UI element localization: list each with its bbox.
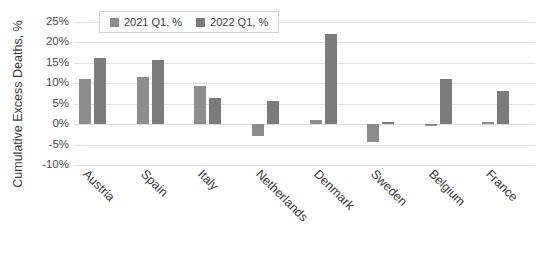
bar — [94, 58, 106, 124]
bar — [367, 124, 379, 142]
bar — [425, 124, 437, 126]
bar-group — [189, 22, 247, 165]
legend-swatch-icon — [196, 18, 205, 27]
bar — [382, 122, 394, 124]
bar — [152, 60, 164, 125]
y-axis-tick-label: 0% — [21, 117, 69, 129]
bar-group — [362, 22, 420, 165]
bar — [325, 34, 337, 124]
bar — [310, 120, 322, 124]
y-axis-tick-label: 10% — [21, 76, 69, 88]
bar — [137, 77, 149, 124]
gridline — [74, 165, 535, 166]
x-axis-label: Italy — [195, 167, 221, 193]
x-axis-label: Sweden — [368, 167, 410, 209]
legend-item-2022[interactable]: 2022 Q1, % — [196, 16, 268, 28]
bar — [194, 86, 206, 124]
bar — [482, 122, 494, 124]
y-axis-tick-label: 20% — [21, 35, 69, 47]
y-axis-tick-label: 25% — [21, 15, 69, 27]
x-axis-label: Netherlands — [253, 167, 311, 225]
bar — [440, 79, 452, 124]
bar-series-container — [74, 22, 535, 165]
bar-group — [420, 22, 478, 165]
bar-group — [305, 22, 363, 165]
bar — [267, 101, 279, 124]
bar — [79, 79, 91, 124]
x-axis-category-labels: AustriaSpainItalyNetherlandsDenmarkSwede… — [74, 167, 535, 267]
x-axis-label: Denmark — [311, 167, 357, 213]
legend-item-2021[interactable]: 2021 Q1, % — [110, 16, 182, 28]
x-axis-label: Austria — [80, 167, 117, 204]
bar — [252, 124, 264, 135]
y-axis-tick-label: 15% — [21, 56, 69, 68]
y-axis-tick-label: 5% — [21, 97, 69, 109]
x-axis-label: Spain — [138, 167, 171, 200]
y-axis-tick-label: -5% — [21, 138, 69, 150]
bar-group — [477, 22, 535, 165]
bar-group — [132, 22, 190, 165]
chart-legend: 2021 Q1, % 2022 Q1, % — [99, 11, 279, 33]
legend-swatch-icon — [110, 18, 119, 27]
bar-chart: Cumulative Excess Deaths, % 25%20%15%10%… — [0, 0, 541, 270]
legend-label: 2022 Q1, % — [210, 16, 268, 28]
cropped-chart-title — [120, 0, 520, 4]
plot-area — [74, 22, 535, 165]
legend-label: 2021 Q1, % — [124, 16, 182, 28]
x-axis-label: Belgium — [426, 167, 468, 209]
x-axis-label: France — [483, 167, 520, 204]
bar-group — [74, 22, 132, 165]
bar — [209, 98, 221, 124]
bar — [497, 91, 509, 124]
y-axis-tick-label: -10% — [21, 158, 69, 170]
bar-group — [247, 22, 305, 165]
